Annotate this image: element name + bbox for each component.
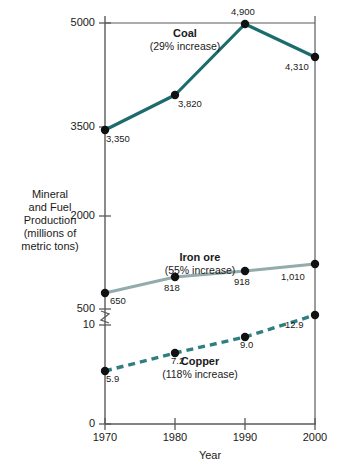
y-axis-tick-label-500: 500 — [52, 302, 95, 314]
y-axis-title-line-1: Mineral — [6, 188, 94, 200]
series-sublabel-iron-ore: (55% increase) — [148, 265, 252, 277]
y-axis-tick-label-5000: 5000 — [52, 16, 95, 28]
marker-iron-ore-2000 — [311, 260, 319, 268]
marker-copper-2000 — [311, 311, 319, 319]
data-label-iron-ore-1980: 818 — [164, 283, 180, 294]
data-label-iron-ore-1990: 918 — [234, 277, 250, 288]
data-label-iron-ore-1970: 650 — [110, 296, 126, 307]
data-label-coal-1980: 3,820 — [178, 99, 202, 110]
series-label-coal: Coal — [140, 27, 230, 39]
x-axis-tick-label-1980: 1980 — [150, 431, 200, 443]
series-label-iron-ore: Iron ore — [155, 251, 245, 263]
series-label-copper: Copper — [155, 355, 245, 367]
data-label-copper-1990: 9.0 — [240, 340, 253, 351]
marker-coal-1990 — [241, 20, 249, 28]
mineral-fuel-production-chart: 5000 3500 2000 500 10 0 1970 1980 1990 2… — [0, 0, 337, 466]
y-axis-title-line-5: metric tons) — [6, 240, 94, 252]
data-label-iron-ore-2000: 1,010 — [281, 272, 305, 283]
data-label-coal-2000: 4,310 — [285, 62, 309, 73]
axis-break-icon — [101, 311, 109, 323]
y-axis-title-line-2: and Fuel — [6, 201, 94, 213]
data-label-copper-2000: 12.9 — [285, 320, 304, 331]
x-axis-title: Year — [180, 449, 240, 461]
marker-iron-ore-1970 — [101, 289, 109, 297]
data-label-coal-1990: 4,900 — [231, 7, 255, 18]
series-sublabel-coal: (29% increase) — [133, 41, 237, 53]
data-label-copper-1970: 5.9 — [106, 374, 119, 385]
data-label-copper-1980: 7.2 — [171, 356, 184, 367]
x-axis-tick-label-1990: 1990 — [220, 431, 270, 443]
x-axis-tick-label-2000: 2000 — [290, 431, 337, 443]
y-axis-tick-label-0: 0 — [52, 417, 95, 429]
y-axis-title-line-4: (millions of — [6, 227, 94, 239]
series-sublabel-copper: (118% increase) — [143, 369, 257, 381]
marker-coal-2000 — [311, 53, 319, 61]
y-axis-tick-label-3500: 3500 — [52, 120, 95, 132]
data-label-coal-1970: 3,350 — [106, 134, 130, 145]
y-axis-tick-label-10: 10 — [52, 318, 95, 330]
x-axis-tick-label-1970: 1970 — [80, 431, 130, 443]
y-axis-title-line-3: Production — [6, 214, 94, 226]
